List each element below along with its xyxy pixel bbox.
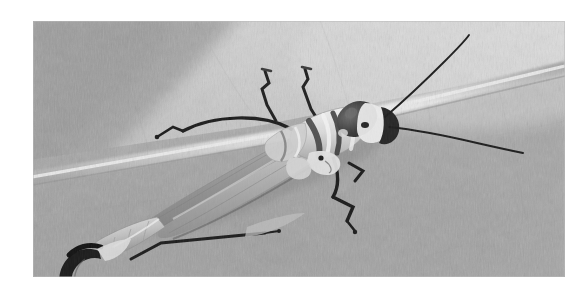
frame-mat-top [0,0,580,21]
photo-grain-overlay [33,21,565,277]
frame-mat-bottom [0,277,580,296]
photo-canvas [33,21,565,277]
screenshot-root [0,0,580,296]
photograph [33,21,565,277]
frame-mat-right [565,0,580,296]
frame-mat-left [0,0,33,296]
